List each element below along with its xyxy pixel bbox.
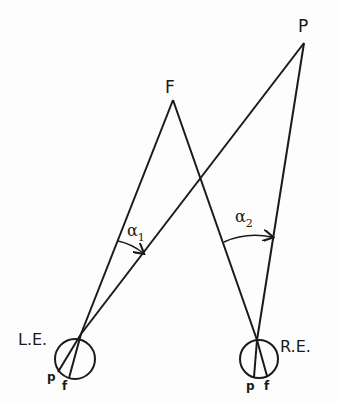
label-alpha2: α2	[235, 207, 253, 230]
diagram-svg: F P L.E. R.E. p f p f α1 α2	[0, 0, 338, 404]
label-right-f: f	[264, 379, 270, 393]
right-eye-p-ray	[254, 340, 257, 377]
right-eye-f-ray	[257, 340, 267, 376]
angle-arc-alpha2	[224, 235, 272, 242]
label-left-f: f	[62, 379, 68, 393]
label-p: P	[298, 16, 308, 36]
left-eye-f-ray	[69, 334, 81, 378]
label-left-eye: L.E.	[18, 330, 47, 349]
line-le-to-p	[81, 43, 304, 334]
line-re-to-p	[257, 43, 304, 340]
label-alpha1: α1	[127, 221, 145, 244]
line-le-to-f	[81, 100, 173, 334]
label-f: F	[165, 77, 175, 97]
label-right-p: p	[246, 379, 255, 393]
label-left-p: p	[47, 370, 56, 384]
label-right-eye: R.E.	[280, 337, 311, 356]
diagram-canvas: F P L.E. R.E. p f p f α1 α2	[0, 0, 338, 404]
